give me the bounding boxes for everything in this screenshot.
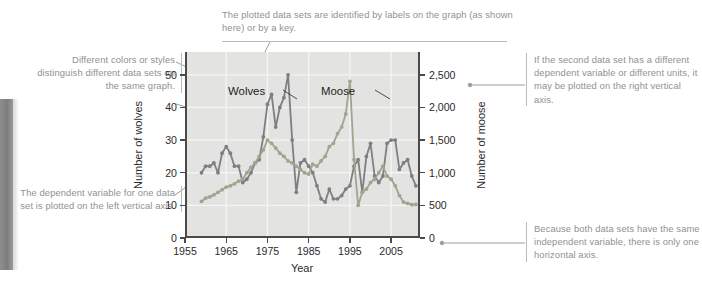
data-point	[200, 171, 204, 175]
left-tick-label: 50	[145, 69, 177, 81]
data-point	[249, 166, 253, 170]
data-point	[373, 177, 377, 181]
series-label-wolves: Wolves	[228, 85, 265, 97]
x-axis-title: Year	[291, 262, 313, 274]
right-tick	[420, 74, 425, 75]
right-tick	[420, 172, 425, 173]
data-point	[253, 161, 257, 165]
data-point	[332, 141, 336, 145]
left-tick-label: 0	[145, 232, 177, 244]
data-point	[233, 164, 237, 168]
data-point	[397, 194, 401, 198]
data-point	[336, 197, 340, 201]
data-point	[377, 181, 381, 185]
data-point	[224, 145, 228, 149]
right-axis-title: Number of moose	[475, 101, 487, 188]
data-point	[208, 164, 212, 168]
left-tick	[180, 139, 185, 140]
right-tick	[420, 107, 425, 108]
data-point	[348, 79, 352, 83]
data-point	[319, 197, 323, 201]
data-point	[340, 125, 344, 129]
callout-right-bottom: Because both data sets have the same ind…	[526, 222, 702, 262]
data-point	[290, 161, 294, 165]
data-point	[319, 159, 323, 163]
data-point	[381, 174, 385, 178]
data-point	[365, 187, 369, 191]
data-point	[282, 96, 286, 100]
data-point	[228, 151, 232, 155]
data-point	[278, 106, 282, 110]
data-point	[360, 190, 364, 194]
data-point	[220, 188, 224, 192]
bottom-tick	[308, 238, 309, 243]
gridlines	[185, 52, 420, 238]
data-point	[216, 190, 220, 194]
data-point	[327, 187, 331, 191]
data-point	[414, 202, 418, 206]
data-point	[270, 93, 274, 97]
data-point	[282, 155, 286, 159]
data-point	[389, 138, 393, 142]
data-point	[294, 164, 298, 168]
data-point	[224, 185, 228, 189]
bottom-tick	[267, 238, 268, 243]
bottom-tick	[390, 238, 391, 243]
right-tick-label: 1,500	[429, 134, 456, 146]
data-point	[402, 161, 406, 165]
data-point	[241, 181, 245, 185]
left-axis-title: Number of wolves	[132, 101, 144, 189]
data-point	[369, 181, 373, 185]
data-point	[307, 172, 311, 176]
left-tick	[180, 172, 185, 173]
callout-right-top: If the second data set has a different d…	[526, 53, 702, 106]
data-point	[212, 161, 216, 165]
bottom-tick-label: 1985	[297, 245, 321, 257]
data-point	[406, 202, 410, 206]
data-point	[266, 138, 270, 142]
data-point	[323, 155, 327, 159]
data-point	[249, 171, 253, 175]
data-point	[311, 171, 315, 175]
data-point	[365, 155, 369, 159]
left-tick-label: 10	[145, 199, 177, 211]
left-tick	[180, 107, 185, 108]
left-tick	[180, 205, 185, 206]
data-point	[228, 184, 232, 188]
data-point	[237, 179, 241, 183]
data-point	[323, 200, 327, 204]
bottom-tick-label: 1955	[173, 245, 197, 257]
bottom-tick-label: 2005	[379, 245, 403, 257]
data-point	[261, 135, 265, 139]
data-point	[311, 162, 315, 166]
bottom-tick	[349, 238, 350, 243]
data-point	[290, 138, 294, 142]
right-tick-label: 2,000	[429, 101, 456, 113]
data-point	[212, 193, 216, 197]
data-point	[327, 145, 331, 149]
data-point	[340, 194, 344, 198]
data-point	[286, 159, 290, 163]
data-point	[414, 184, 418, 188]
callout-top: The plotted data sets are identified by …	[222, 8, 514, 34]
data-point	[410, 174, 414, 178]
right-tick-label: 500	[429, 199, 447, 211]
right-tick	[420, 205, 425, 206]
left-tick-label: 20	[145, 167, 177, 179]
data-point	[402, 200, 406, 204]
data-point	[393, 138, 397, 142]
data-point	[348, 184, 352, 188]
data-point	[204, 164, 208, 168]
data-point	[336, 132, 340, 136]
data-point	[385, 141, 389, 145]
data-point	[200, 200, 204, 204]
bottom-tick-label: 1965	[214, 245, 238, 257]
left-tick	[180, 74, 185, 75]
data-point	[344, 187, 348, 191]
data-point	[393, 184, 397, 188]
data-point	[381, 164, 385, 168]
data-point	[377, 171, 381, 175]
callout-right-top-text: If the second data set has a different d…	[534, 54, 697, 105]
bottom-tick-label: 1975	[256, 245, 280, 257]
data-point	[385, 174, 389, 178]
